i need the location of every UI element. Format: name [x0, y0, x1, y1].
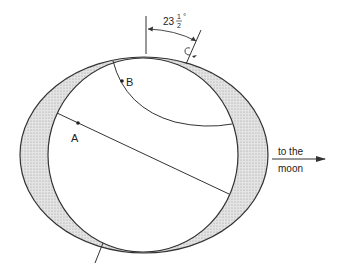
tilt-angle-arc: [148, 29, 196, 41]
earth-circle: [48, 58, 238, 252]
earth-axis-top: [186, 30, 201, 64]
point-b-label: B: [126, 76, 133, 88]
angle-label-degree: °: [183, 12, 186, 21]
rotation-arrow-icon: [185, 48, 190, 55]
to-the-moon-label-line1: to the: [278, 146, 303, 157]
rotation-arrowhead-icon: [192, 55, 197, 58]
point-a-label: A: [71, 132, 79, 144]
to-the-moon-label-line2: moon: [278, 163, 303, 174]
angle-label-whole: 23: [163, 16, 175, 27]
point-a-dot: [76, 121, 80, 125]
point-b-dot: [120, 79, 124, 83]
earth-tidal-bulge-diagram: A B 23 1 2 ° to the moon: [0, 0, 340, 270]
arc-arrow-left: [148, 27, 153, 32]
angle-label-denominator: 2: [177, 22, 181, 29]
angle-label-numerator: 1: [177, 13, 181, 20]
